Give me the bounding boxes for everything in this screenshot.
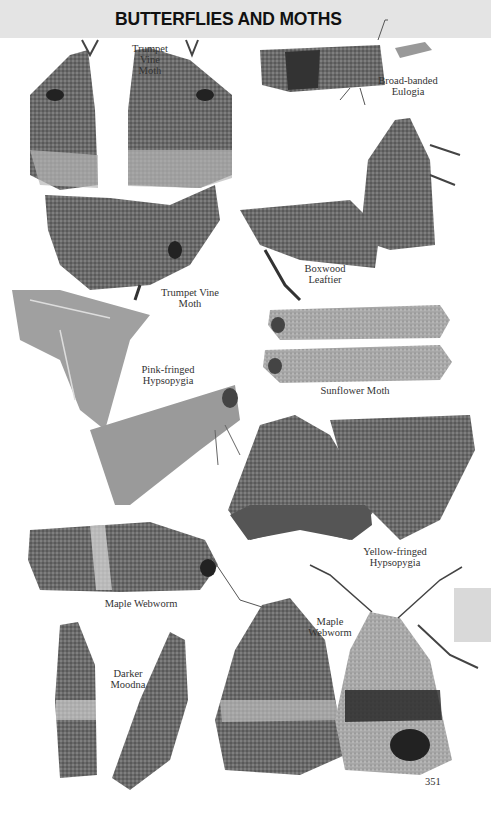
label-darker-moodna: Darker Moodna <box>100 668 156 690</box>
maple-webworm-side-image <box>28 522 265 608</box>
label-maple-webworm-spread: Maple Webworm <box>300 616 360 638</box>
darker-moodna-image <box>55 622 188 790</box>
page-number: 351 <box>425 776 441 787</box>
moth-plate-illustrations <box>0 0 491 813</box>
sunflower-moth-image <box>263 305 452 383</box>
maple-webworm-spread-image <box>215 565 478 775</box>
label-trumpet-vine-moth-side: Trumpet Vine Moth <box>148 287 232 309</box>
trumpet-vine-moth-side-image <box>45 185 220 300</box>
label-sunflower-moth: Sunflower Moth <box>310 385 400 396</box>
label-broad-banded-eulogia: Broad-banded Eulogia <box>368 75 448 97</box>
label-yellow-fringed-hypsopygia: Yellow-fringed Hypsopygia <box>350 546 440 568</box>
label-trumpet-vine-moth: Trumpet Vine Moth <box>118 43 182 76</box>
pink-fringed-hypsopygia-image <box>12 290 240 505</box>
yellow-fringed-hypsopygia-image <box>228 415 475 540</box>
label-boxwood-leaftier: Boxwood Leaftier <box>295 263 355 285</box>
label-pink-fringed-hypsopygia: Pink-fringed Hypsopygia <box>130 364 206 386</box>
section-thumb-tab <box>454 588 491 642</box>
label-maple-webworm-side: Maple Webworm <box>96 598 186 609</box>
